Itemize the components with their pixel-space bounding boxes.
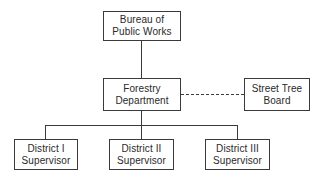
connector-branch-district1 [45, 125, 46, 139]
node-district-3-supervisor: District III Supervisor [205, 139, 270, 170]
connector-branch-district3 [237, 125, 238, 139]
node-label-line1: Street Tree [252, 83, 303, 95]
node-label-line2: Board [263, 95, 290, 107]
org-chart: Bureau of Public Works Forestry Departme… [0, 0, 321, 182]
node-label-line2: Department [115, 95, 168, 107]
node-district-1-supervisor: District I Supervisor [14, 139, 78, 170]
connector-forestry-branch [141, 111, 142, 126]
connector-bureau-forestry [141, 40, 142, 78]
node-label-line1: District III [216, 143, 259, 155]
connector-branch-district2 [141, 125, 142, 139]
node-label-line2: Public Works [112, 26, 171, 38]
node-label-line1: District II [122, 143, 162, 155]
node-label-line1: Forestry [123, 83, 160, 95]
connector-forestry-streettree-dashed [181, 94, 244, 95]
node-label-line2: Supervisor [213, 155, 262, 167]
node-forestry-department: Forestry Department [103, 78, 181, 111]
node-district-2-supervisor: District II Supervisor [109, 139, 174, 170]
node-label-line2: Supervisor [117, 155, 166, 167]
node-label-line2: Supervisor [22, 155, 71, 167]
node-bureau-of-public-works: Bureau of Public Works [103, 11, 181, 41]
node-label-line1: Bureau of [120, 14, 164, 26]
node-street-tree-board: Street Tree Board [244, 78, 310, 111]
node-label-line1: District I [27, 143, 64, 155]
